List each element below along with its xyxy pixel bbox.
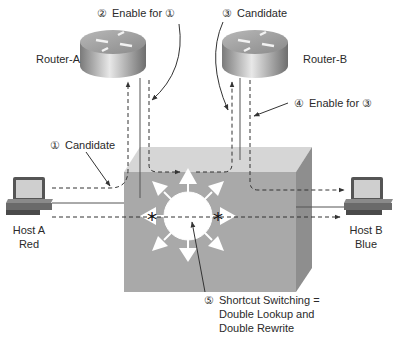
callout-arrow-step1 <box>86 152 110 186</box>
step1-text: Candidate <box>65 139 115 151</box>
step4-text: Enable for ③ <box>309 97 372 109</box>
rewrite-star-icon: * <box>147 207 157 231</box>
switch-top-face <box>124 147 312 172</box>
annotation-step1: ① Candidate <box>50 139 115 151</box>
step5-line2: Double Lookup and <box>219 308 314 320</box>
callout-arrow-step2 <box>152 24 180 100</box>
annotation-step3: ③ Candidate <box>222 7 287 19</box>
host-a-color-label: Red <box>19 238 39 250</box>
annotation-step4: ④ Enable for ③ <box>294 97 372 109</box>
router-a <box>80 30 146 78</box>
step5-marker: ⑤ <box>204 294 214 306</box>
step4-marker: ④ <box>294 97 304 109</box>
host-b-computer-icon <box>344 177 393 215</box>
router-b <box>222 30 288 78</box>
callout-arrow-step4 <box>254 103 288 116</box>
host-a-label: Host A <box>13 224 46 236</box>
flow-host-a-to-router-a <box>52 82 128 188</box>
switch-side-face <box>296 147 312 292</box>
annotation-step2: ② Enable for ① <box>97 7 175 19</box>
step5-line1: Shortcut Switching = <box>219 294 320 306</box>
rewrite-star-icon: * <box>213 207 223 231</box>
router-b-label: Router-B <box>303 53 347 65</box>
step2-text: Enable for ① <box>112 7 175 19</box>
step2-marker: ② <box>97 7 107 19</box>
host-a-computer-icon <box>6 177 53 215</box>
step5-line3: Double Rewrite <box>219 322 294 334</box>
step3-marker: ③ <box>222 7 232 19</box>
host-b-color-label: Blue <box>355 238 377 250</box>
host-b-label: Host B <box>349 224 382 236</box>
annotation-step5: ⑤ Shortcut Switching = Double Lookup and… <box>204 294 320 334</box>
step3-text: Candidate <box>237 7 287 19</box>
diagram-canvas: * * Router-A Router-B Host A Red Host B … <box>0 0 402 341</box>
step1-marker: ① <box>50 139 60 151</box>
mls-shortcut-switching-diagram: * * Router-A Router-B Host A Red Host B … <box>0 0 402 341</box>
router-a-label: Router-A <box>36 53 81 65</box>
